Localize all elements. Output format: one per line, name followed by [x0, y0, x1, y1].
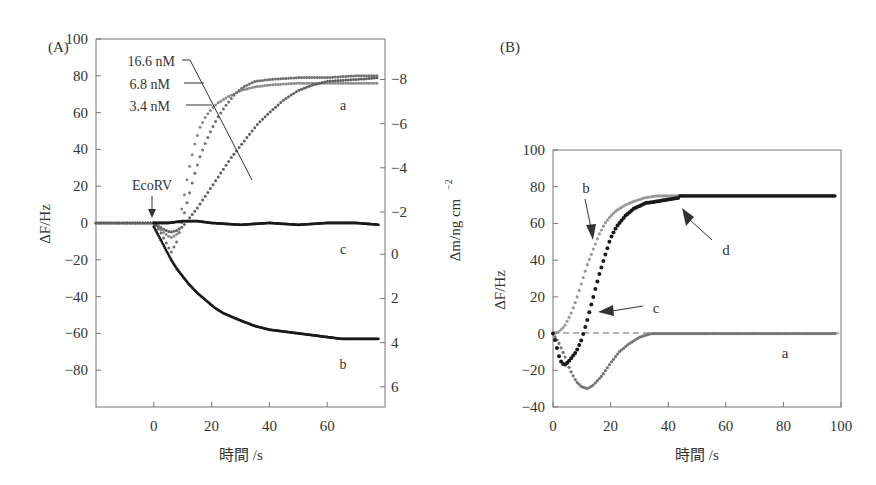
x-tick-label: 0 — [150, 418, 158, 434]
y-tick-label: −60 — [65, 325, 88, 341]
y-tick-label: 80 — [530, 179, 545, 195]
y2-tick-label: −4 — [391, 160, 407, 176]
series-b — [551, 194, 683, 335]
arrow-b — [585, 199, 596, 240]
panel-a: 100806040200−20−40−60−80 0204060 −8−6−4−… — [37, 31, 463, 463]
y-tick-label: 80 — [73, 68, 88, 84]
series-d — [678, 194, 837, 197]
y-tick-label: −40 — [65, 289, 88, 305]
panel-b-frame — [553, 150, 841, 407]
x-tick-label: 80 — [776, 418, 791, 434]
x-tick-label: 100 — [830, 418, 853, 434]
y-tick-label: 40 — [73, 141, 88, 157]
arrow-d — [682, 208, 712, 240]
series-c — [551, 196, 680, 366]
y-tick-label: 0 — [538, 326, 546, 342]
legend-16-6-nm: 16.6 nM — [128, 54, 176, 69]
legend-6-8-nm: 6.8 nM — [130, 77, 171, 92]
y-tick-label: −40 — [522, 399, 545, 415]
curve-b-label: b — [340, 357, 347, 372]
panel-a-series — [95, 74, 380, 340]
y-tick-label: 100 — [523, 142, 546, 158]
ecorv-arrow — [148, 196, 156, 218]
panel-b-y-axis-label: ΔF/Hz — [492, 270, 508, 310]
y-tick-label: 20 — [73, 178, 88, 194]
curve-b-label: b — [582, 180, 590, 196]
x-tick-label: 40 — [661, 418, 676, 434]
y-tick-label: −80 — [65, 362, 88, 378]
curve-c-label: c — [340, 242, 346, 257]
x-tick-label: 0 — [549, 418, 557, 434]
y2-tick-label: 6 — [391, 379, 399, 395]
panel-b-label: (B) — [500, 39, 520, 56]
panel-a-label: (A) — [48, 39, 69, 56]
panel-a-y-axis-label: ΔF/Hz — [37, 204, 53, 244]
y2-tick-label: −2 — [391, 204, 407, 220]
y2-tick-label: 2 — [391, 290, 399, 306]
y2-tick-label: −6 — [391, 116, 407, 132]
y-tick-label: 20 — [530, 289, 545, 305]
ecorv-label: EcoRV — [132, 178, 172, 193]
curve-c-label: c — [653, 300, 660, 316]
svg-text:−2: −2 — [443, 179, 454, 190]
x-tick-label: 20 — [204, 418, 219, 434]
x-tick-label: 40 — [262, 418, 277, 434]
y2-tick-label: −8 — [391, 71, 407, 87]
y2-tick-label: 0 — [391, 246, 399, 262]
panel-a-y2-ticks: −8−6−4−20246 — [380, 71, 407, 394]
x-tick-label: 20 — [603, 418, 618, 434]
y-tick-label: −20 — [65, 252, 88, 268]
panel-b: 100806040200−20−40 020406080100 (B) b c … — [492, 39, 852, 463]
panel-b-x-axis-label: 時間 /s — [675, 447, 719, 463]
y-tick-label: 40 — [530, 252, 545, 268]
chart-canvas: 100806040200−20−40−60−80 0204060 −8−6−4−… — [0, 0, 876, 485]
y-tick-label: 100 — [66, 31, 89, 47]
y2-tick-label: 4 — [391, 335, 399, 351]
series-c — [152, 220, 379, 226]
y-tick-label: 60 — [530, 215, 545, 231]
series-a — [551, 332, 836, 390]
arrow-c — [598, 305, 643, 316]
legend-3-4-nm: 3.4 nM — [130, 99, 171, 114]
y-tick-label: 60 — [73, 105, 88, 121]
y-tick-label: 0 — [81, 215, 89, 231]
curve-d-label: d — [722, 242, 730, 258]
panel-a-y2-axis-label: Δm/ng cm −2 — [443, 179, 463, 261]
panel-a-x-axis-label: 時間 /s — [219, 447, 263, 463]
svg-text:Δm/ng cm: Δm/ng cm — [447, 198, 463, 261]
x-tick-label: 60 — [320, 418, 335, 434]
x-tick-label: 60 — [718, 418, 733, 434]
curve-a-label: a — [340, 98, 347, 113]
concentration-leader-lines — [182, 60, 252, 180]
y-tick-label: −20 — [522, 362, 545, 378]
curve-a-label: a — [782, 345, 789, 361]
